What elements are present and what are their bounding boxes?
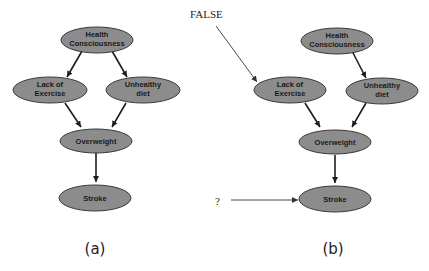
node-label-line1: Lack of [277,80,304,89]
node-overweight-b: Overweight [299,130,371,154]
diagram-a: Health Consciousness Lack of Exercise Un… [13,27,180,258]
node-label-line2: Exercise [275,89,306,98]
edge-diet-to-overweight-b [352,103,366,127]
edge-health-to-lack-a [67,51,82,77]
edge-diet-to-overweight-a [112,103,126,127]
edge-lack-to-overweight-b [305,103,320,127]
node-stroke-a: Stroke [59,185,131,211]
node-label-line2: Consciousness [69,39,124,48]
node-lack-of-exercise-b: Lack of Exercise [254,77,326,103]
node-label-line1: Health [86,30,109,39]
node-label: Overweight [315,138,356,147]
node-label-line2: Exercise [35,89,66,98]
false-annotation: FALSE [190,8,223,20]
node-overweight-a: Overweight [60,129,132,153]
node-lack-of-exercise-a: Lack of Exercise [13,77,87,103]
node-stroke-b: Stroke [299,186,371,212]
node-unhealthy-diet-a: Unhealthy diet [106,77,180,103]
diagram-b: FALSE ? Health Consciousness Lack of Exe… [190,8,418,258]
caption-b: (b) [322,240,343,258]
node-label-line2: diet [136,89,150,98]
node-label-line1: Unhealthy [364,81,401,90]
node-label: Stroke [83,194,106,203]
node-unhealthy-diet-b: Unhealthy diet [346,78,418,104]
edge-health-to-diet-b [352,51,366,78]
edge-health-to-diet-a [112,51,127,77]
node-label-line2: Consciousness [309,40,364,49]
bayesian-network-figure: Health Consciousness Lack of Exercise Un… [0,0,429,271]
node-label-line1: Unhealthy [125,80,162,89]
node-label-line1: Lack of [37,80,64,89]
node-label-line2: diet [375,90,389,99]
node-label-line1: Health [326,31,349,40]
edge-lack-to-overweight-a [65,103,81,127]
query-annotation: ? [215,195,220,207]
caption-a: (a) [85,240,106,258]
false-annotation-arrow [216,26,257,82]
node-health-consciousness-a: Health Consciousness [61,27,133,53]
node-label: Stroke [323,195,346,204]
node-health-consciousness-b: Health Consciousness [301,28,373,54]
node-label: Overweight [76,137,117,146]
